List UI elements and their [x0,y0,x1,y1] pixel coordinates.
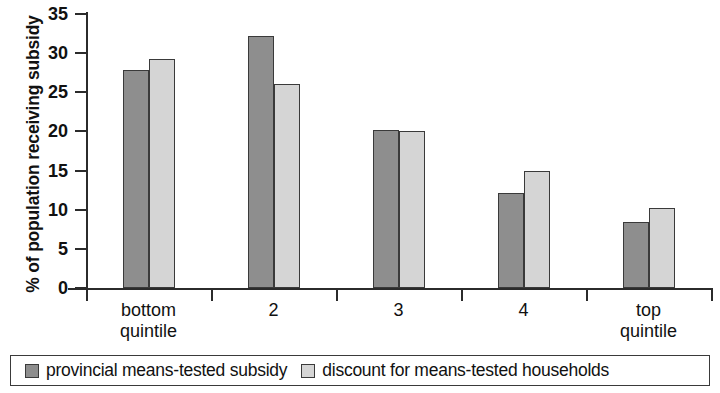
bar-1-3 [524,171,550,288]
y-axis-tick [75,91,86,93]
plot-area [86,14,711,288]
bar-1-4 [649,208,675,288]
x-axis-line [68,288,713,290]
x-axis-label-0: bottom quintile [86,300,211,342]
chart-legend: provincial means-tested subsidydiscount … [10,355,710,386]
y-axis-tick [75,248,86,250]
y-axis-tick-label: 5 [28,240,68,258]
legend-swatch-icon [25,364,39,378]
x-axis-label-2: 3 [336,300,461,321]
legend-label: discount for means-tested households [322,360,609,381]
bar-0-0 [123,70,149,288]
y-axis-tick [75,52,86,54]
y-axis-tick-label: 30 [28,44,68,62]
bar-0-1 [248,36,274,288]
x-axis-tick [711,290,713,301]
y-axis-tick-label: 0 [28,279,68,297]
x-axis-label-3: 4 [461,300,586,321]
bar-chart-figure: % of population receiving subsidy 051015… [0,0,720,393]
legend-entry-1[interactable]: discount for means-tested households [301,360,609,381]
bar-1-1 [274,84,300,288]
legend-entry-0[interactable]: provincial means-tested subsidy [25,360,287,381]
bar-0-3 [498,193,524,288]
legend-label: provincial means-tested subsidy [46,360,287,381]
y-axis-tick [75,170,86,172]
y-axis-tick-label: 25 [28,83,68,101]
y-axis-tick [75,13,86,15]
y-axis-tick [75,130,86,132]
bar-0-2 [373,130,399,288]
y-axis-tick-label: 10 [28,201,68,219]
x-axis-label-1: 2 [211,300,336,321]
bar-1-2 [399,131,425,288]
y-axis-tick [75,209,86,211]
y-axis-tick-label: 15 [28,162,68,180]
y-axis-tick-label: 35 [28,5,68,23]
bar-1-0 [149,59,175,288]
legend-swatch-icon [301,364,315,378]
y-axis-tick [75,287,86,289]
x-axis-label-4: top quintile [586,300,711,342]
bar-0-4 [623,222,649,288]
y-axis-tick-label: 20 [28,122,68,140]
